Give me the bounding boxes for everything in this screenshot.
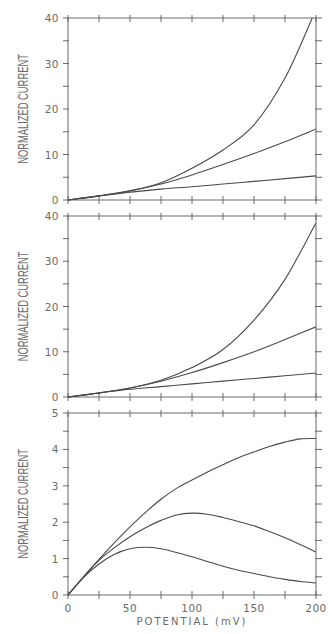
y-tick-label: 5 <box>52 407 59 419</box>
top-panel: 010203040NORMALIZED CURRENT <box>15 12 322 206</box>
y-tick-label: 20 <box>45 103 59 115</box>
plot-frame <box>68 216 316 397</box>
y-tick-label: 40 <box>45 12 59 24</box>
y-tick-label: 30 <box>45 255 59 267</box>
x-tick-label: 100 <box>181 602 203 614</box>
y-tick-label: 10 <box>45 346 59 358</box>
plot-frame <box>68 413 316 595</box>
middle-panel: 010203040NORMALIZED CURRENT <box>15 210 322 403</box>
data-curve-curve-1 <box>68 223 316 397</box>
x-tick-label: 200 <box>305 602 327 614</box>
y-tick-label: 0 <box>52 589 59 601</box>
data-curve-curve-2 <box>68 513 316 595</box>
y-tick-label: 0 <box>52 391 59 403</box>
y-tick-label: 3 <box>52 480 59 492</box>
y-tick-label: 20 <box>45 301 59 313</box>
figure: 010203040NORMALIZED CURRENT 010203040NOR… <box>0 0 334 634</box>
data-curve-curve-1 <box>68 438 316 595</box>
y-tick-label: 1 <box>52 553 59 565</box>
y-tick-label: 4 <box>52 443 59 455</box>
plot-frame <box>68 18 316 200</box>
y-axis-label: NORMALIZED CURRENT <box>15 54 32 164</box>
x-tick-label: 50 <box>123 602 137 614</box>
bottom-panel: 012345050100150200NORMALIZED CURRENT <box>15 407 327 614</box>
data-curve-curve-2 <box>68 129 316 200</box>
y-tick-label: 0 <box>52 194 59 206</box>
y-tick-label: 2 <box>52 516 59 528</box>
x-tick-label: 150 <box>243 602 265 614</box>
y-tick-label: 40 <box>45 210 59 222</box>
data-curve-curve-1 <box>68 18 312 200</box>
y-axis-label: NORMALIZED CURRENT <box>15 449 32 559</box>
x-tick-label: 0 <box>64 602 71 614</box>
y-axis-label: NORMALIZED CURRENT <box>15 251 32 361</box>
x-axis-label: POTENTIAL (mV) <box>137 616 248 627</box>
data-curve-curve-2 <box>68 327 316 397</box>
y-tick-label: 30 <box>45 58 59 70</box>
y-tick-label: 10 <box>45 149 59 161</box>
